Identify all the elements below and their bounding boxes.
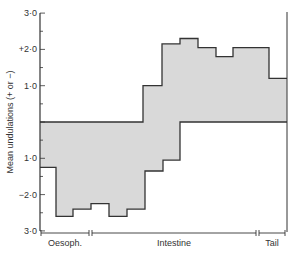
y-tick-label: 1·0 [24, 153, 37, 163]
x-segments: Oesoph.IntestineTail [41, 230, 285, 248]
segment-label: Intestine [157, 238, 191, 248]
y-tick-label: 1·0 [24, 81, 37, 91]
plot-area [40, 12, 287, 232]
y-axis: 3·0+2·01·01·0−2·03·0 [19, 8, 45, 236]
y-axis-title: Mean undulations (+ or −) [5, 70, 15, 173]
y-tick-label: 3·0 [24, 226, 37, 236]
undulation-band [40, 39, 287, 217]
segment-label: Oesoph. [48, 238, 82, 248]
undulations-chart: 3·0+2·01·01·0−2·03·0 Oesoph.IntestineTai… [0, 0, 294, 253]
y-tick-label: +2·0 [19, 44, 37, 54]
y-tick-label: 3·0 [24, 8, 37, 18]
segment-label: Tail [265, 238, 279, 248]
y-tick-label: −2·0 [19, 190, 37, 200]
